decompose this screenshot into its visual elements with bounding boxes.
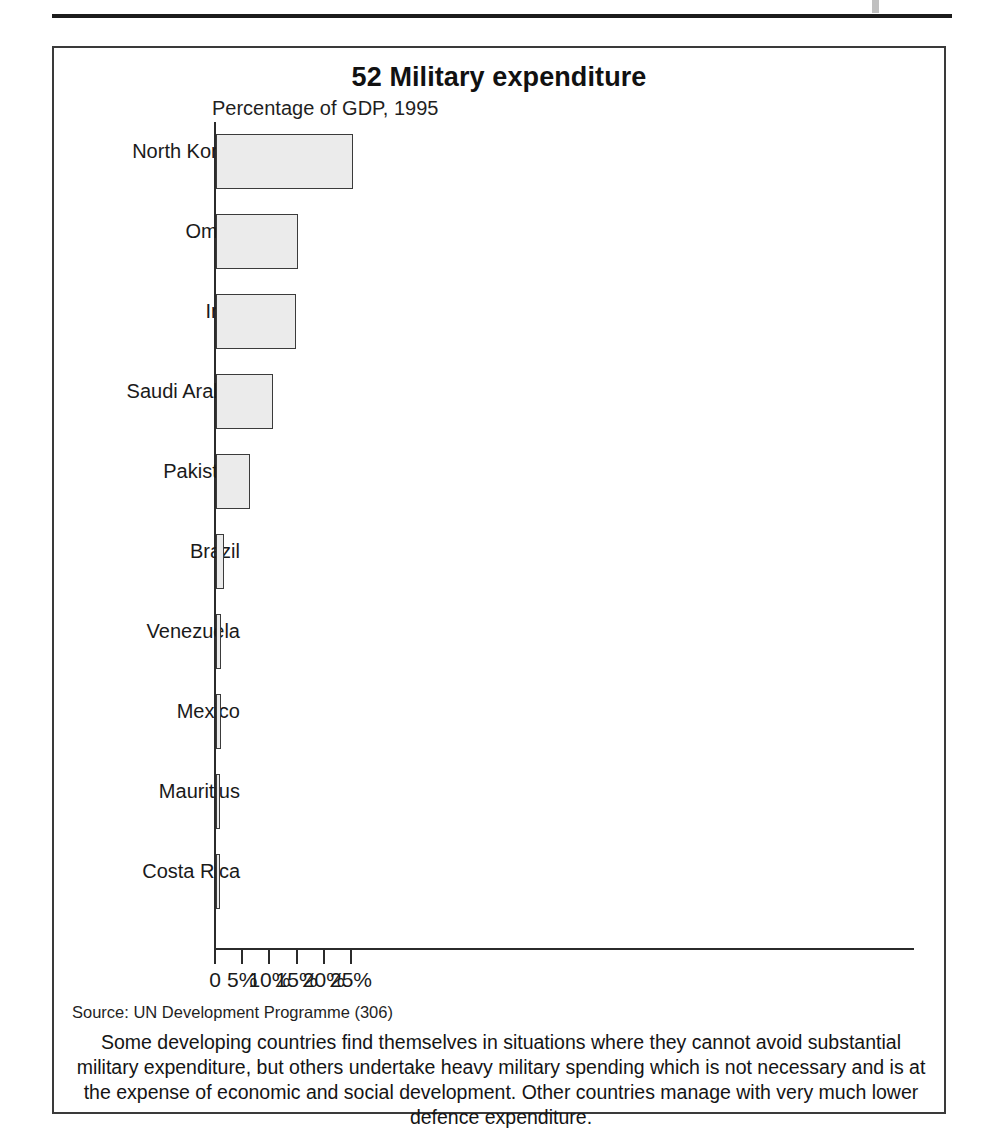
figure-caption: Some developing countries find themselve… — [76, 1030, 926, 1130]
x-axis-tick — [350, 950, 352, 964]
bar-category-label: Venezuela — [0, 620, 240, 643]
x-axis-line — [214, 948, 914, 950]
bar-row: Mauritius — [54, 762, 948, 842]
bar — [216, 134, 353, 189]
bar — [216, 694, 221, 749]
bar — [216, 294, 296, 349]
bar — [216, 614, 221, 669]
bar-category-label: Brazil — [0, 540, 240, 563]
x-axis-tick-label: 0 — [209, 968, 221, 992]
x-axis-tick — [268, 950, 270, 964]
bar — [216, 534, 224, 589]
bar-category-label: Mexico — [0, 700, 240, 723]
page-header-rule — [52, 14, 952, 18]
bar-row: Brazil — [54, 522, 948, 602]
bar-row: Oman — [54, 202, 948, 282]
x-axis-tick-label: 25% — [330, 968, 372, 992]
bar-row: Costa Rica — [54, 842, 948, 922]
bar-row: Venezuela — [54, 602, 948, 682]
bar — [216, 774, 220, 829]
bar-row: Saudi Arabia — [54, 362, 948, 442]
figure-frame: 52 Military expenditure Percentage of GD… — [52, 46, 946, 1114]
bar-row: North Korea — [54, 122, 948, 202]
bar-category-label: Costa Rica — [0, 860, 240, 883]
bar-chart-plot-area: North KoreaOmanIraqSaudi ArabiaPakistanB… — [54, 48, 948, 1116]
x-axis-tick — [323, 950, 325, 964]
bar-category-label: Pakistan — [0, 460, 240, 483]
bar — [216, 374, 273, 429]
bar-row: Iraq — [54, 282, 948, 362]
bar-category-label: Oman — [0, 220, 240, 243]
bar-category-label: Iraq — [0, 300, 240, 323]
bar-category-label: Saudi Arabia — [0, 380, 240, 403]
bar-row: Pakistan — [54, 442, 948, 522]
bar — [216, 454, 250, 509]
bar-row: Mexico — [54, 682, 948, 762]
source-line: Source: UN Development Programme (306) — [72, 1003, 393, 1022]
x-axis-tick — [214, 950, 216, 964]
bar — [216, 214, 298, 269]
bar — [216, 854, 220, 909]
bar-category-label: North Korea — [0, 140, 240, 163]
bar-category-label: Mauritius — [0, 780, 240, 803]
x-axis-tick — [241, 950, 243, 964]
page-header-mark — [872, 0, 879, 13]
x-axis-tick — [296, 950, 298, 964]
